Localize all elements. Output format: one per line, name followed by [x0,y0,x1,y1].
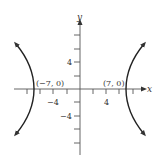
y-tick-label-4: 4 [67,58,72,67]
vertex-right-label: (7, 0) [103,79,125,88]
y-axis-label: y [76,12,83,22]
vertex-left-label: (−7, 0) [36,79,64,88]
right-branch-lower [126,89,144,134]
hyperbola-plot: x −4 4 y 4 −4 (−7, 0) (7, 0) [0,0,159,155]
x-tick-label-neg4: −4 [47,98,59,107]
x-axis: x −4 4 [14,84,152,107]
left-branch [16,44,34,89]
x-tick-label-4: 4 [104,98,109,107]
y-tick-label-neg4: −4 [60,112,72,121]
right-branch [126,44,144,89]
left-branch-lower [16,89,34,134]
x-axis-label: x [147,84,152,94]
